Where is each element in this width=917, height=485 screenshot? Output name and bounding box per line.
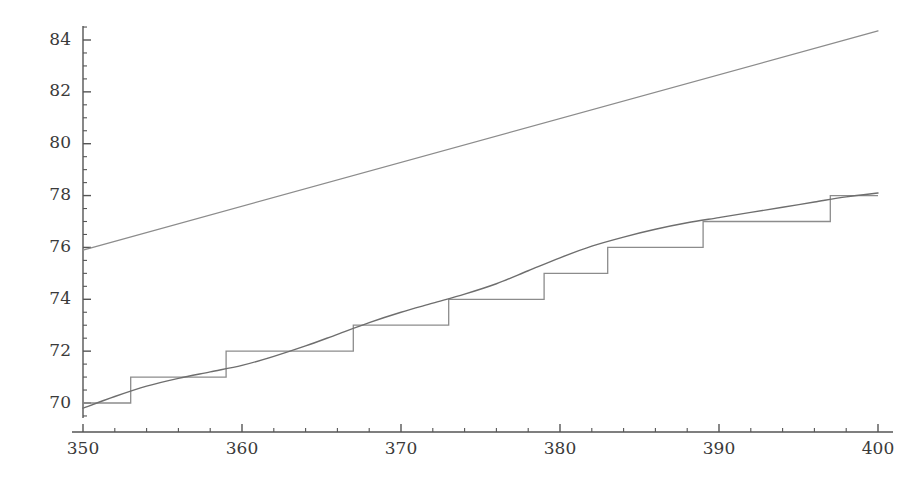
series-smooth-curve — [83, 193, 878, 408]
y-axis-tick-label: 74 — [49, 288, 71, 308]
x-axis-tick-label: 390 — [703, 438, 735, 458]
chart-plot: 7072747678808284 350360370380390400 — [0, 0, 917, 485]
x-axis-tick-label: 360 — [226, 438, 258, 458]
x-axis-tick-label: 350 — [67, 438, 99, 458]
y-axis-ticks — [83, 27, 91, 416]
y-axis-tick-labels: 7072747678808284 — [49, 29, 71, 412]
y-axis-tick-label: 84 — [49, 29, 71, 49]
x-axis-tick-label: 400 — [862, 438, 894, 458]
y-axis-tick-label: 70 — [49, 392, 71, 412]
series-step-function — [83, 196, 878, 403]
x-axis-tick-label: 380 — [544, 438, 576, 458]
x-axis-ticks — [83, 424, 878, 432]
y-axis-tick-label: 76 — [49, 236, 71, 256]
axis-group: 7072747678808284 350360370380390400 — [49, 26, 894, 458]
y-axis-tick-label: 72 — [49, 340, 71, 360]
chart-container: 7072747678808284 350360370380390400 — [0, 0, 917, 485]
series-group — [83, 31, 878, 408]
y-axis-tick-label: 80 — [49, 132, 71, 152]
series-upper-line — [83, 31, 878, 250]
y-axis-tick-label: 78 — [49, 184, 71, 204]
x-axis-tick-labels: 350360370380390400 — [67, 438, 894, 458]
x-axis-tick-label: 370 — [385, 438, 417, 458]
y-axis-tick-label: 82 — [49, 80, 71, 100]
